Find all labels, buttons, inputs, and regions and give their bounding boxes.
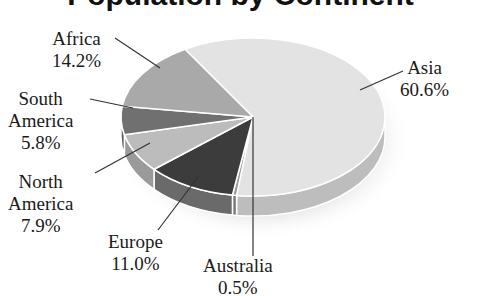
label-south-america: South America 5.8%	[8, 88, 73, 154]
label-asia-name: Asia	[400, 57, 449, 79]
label-north-america-name2: America	[8, 193, 73, 215]
label-africa-value: 14.2%	[52, 50, 101, 72]
label-europe-value: 11.0%	[108, 253, 163, 275]
label-south-america-name2: America	[8, 110, 73, 132]
label-australia-value: 0.5%	[203, 277, 273, 296]
label-africa-name: Africa	[52, 28, 101, 50]
label-australia-name: Australia	[203, 255, 273, 277]
label-africa: Africa 14.2%	[52, 28, 101, 72]
label-asia: Asia 60.6%	[400, 57, 449, 101]
leader-line-africa	[115, 38, 160, 68]
label-north-america-value: 7.9%	[8, 215, 73, 237]
label-north-america-name1: North	[8, 171, 73, 193]
label-australia: Australia 0.5%	[203, 255, 273, 296]
label-south-america-name1: South	[8, 88, 73, 110]
label-europe-name: Europe	[108, 231, 163, 253]
label-europe: Europe 11.0%	[108, 231, 163, 275]
label-south-america-value: 5.8%	[8, 132, 73, 154]
label-north-america: North America 7.9%	[8, 171, 73, 237]
label-asia-value: 60.6%	[400, 79, 449, 101]
